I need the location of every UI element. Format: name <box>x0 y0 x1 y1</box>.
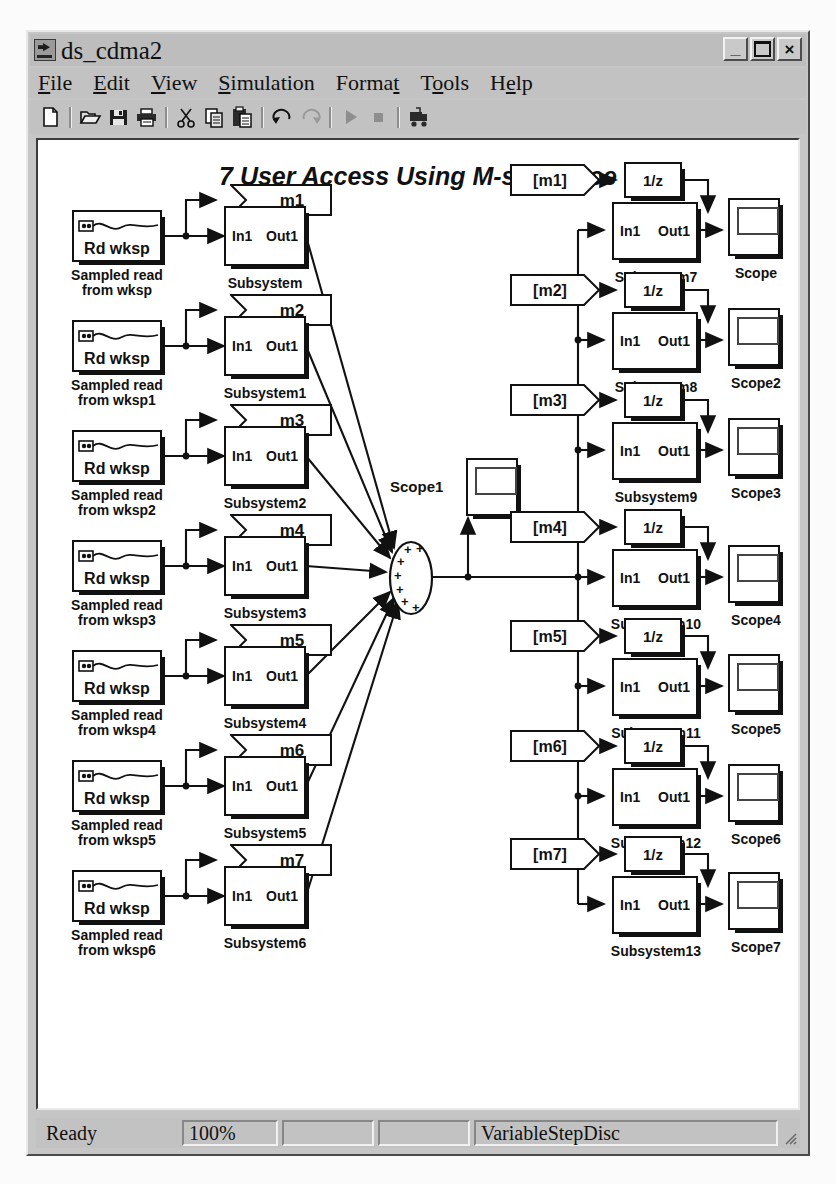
close-glyph: × <box>779 39 800 59</box>
from-tag-label: [m4] <box>533 519 567 536</box>
from-tag-block[interactable]: [m2] <box>510 274 600 306</box>
subsystem-block[interactable]: In1 Out1 <box>224 536 306 596</box>
model-canvas[interactable]: 7 User Access Using M-sequence <box>36 138 800 1110</box>
zoom-level[interactable]: 100% <box>182 1120 278 1146</box>
minimize-glyph: _ <box>725 39 746 59</box>
sum-block[interactable]: + + + + + + + <box>388 540 434 616</box>
read-from-workspace-block[interactable]: Rd wksp <box>72 760 162 812</box>
from-tag-label: [m7] <box>533 846 567 863</box>
paste-icon[interactable] <box>230 105 255 129</box>
minimize-button[interactable]: _ <box>723 37 748 61</box>
subsystem-block[interactable]: In1 Out1 <box>224 866 306 926</box>
subsystem-caption: Subsystem4 <box>210 716 320 731</box>
scope-caption: Scope2 <box>716 376 796 391</box>
subsystem-block[interactable]: In1 Out1 <box>612 312 698 370</box>
unit-delay-block[interactable]: 1/z <box>624 728 682 764</box>
scope-block[interactable] <box>728 872 780 930</box>
scope-caption: Scope6 <box>716 832 796 847</box>
read-from-workspace-block[interactable]: Rd wksp <box>72 210 162 262</box>
menu-edit[interactable]: Edit <box>93 70 130 96</box>
print-icon[interactable] <box>134 105 159 129</box>
subsystem-block[interactable]: In1 Out1 <box>612 876 698 934</box>
unit-delay-label: 1/z <box>626 392 680 409</box>
from-tag-block[interactable]: [m6] <box>510 730 600 762</box>
from-tag-label: [m2] <box>533 282 567 299</box>
subsystem-block[interactable]: In1 Out1 <box>612 202 698 260</box>
scope-block[interactable] <box>728 764 780 822</box>
read-from-workspace-block[interactable]: Rd wksp <box>72 430 162 482</box>
open-model-icon[interactable] <box>78 105 103 129</box>
port-out1: Out1 <box>266 778 298 794</box>
svg-text:+: + <box>397 554 405 569</box>
port-out1: Out1 <box>658 789 690 805</box>
subsystem-block[interactable]: In1 Out1 <box>224 206 306 266</box>
port-out1: Out1 <box>266 668 298 684</box>
from-tag-block[interactable]: [m4] <box>510 511 600 543</box>
scope-caption: Scope3 <box>716 486 796 501</box>
unit-delay-block[interactable]: 1/z <box>624 836 682 872</box>
start-simulation-icon[interactable] <box>338 105 363 129</box>
unit-delay-block[interactable]: 1/z <box>624 272 682 308</box>
subsystem-block[interactable]: In1 Out1 <box>612 658 698 716</box>
subsystem-block[interactable]: In1 Out1 <box>224 316 306 376</box>
subsystem-block[interactable]: In1 Out1 <box>224 426 306 486</box>
cut-icon[interactable] <box>174 105 199 129</box>
unit-delay-block[interactable]: 1/z <box>624 509 682 545</box>
subsystem-block[interactable]: In1 Out1 <box>612 768 698 826</box>
read-from-workspace-block[interactable]: Rd wksp <box>72 650 162 702</box>
copy-icon[interactable] <box>202 105 227 129</box>
subsystem-caption: Subsystem <box>210 276 320 291</box>
resize-grip[interactable] <box>782 1130 798 1146</box>
scope-screen <box>737 207 779 235</box>
scope-block[interactable] <box>728 198 780 256</box>
build-model-icon[interactable] <box>406 105 431 129</box>
menu-format[interactable]: Format <box>336 70 400 96</box>
toolbar-separator <box>261 107 264 128</box>
port-in1: In1 <box>232 558 252 574</box>
unit-delay-block[interactable]: 1/z <box>624 618 682 654</box>
subsystem-block[interactable]: In1 Out1 <box>612 422 698 480</box>
waveform-icon <box>78 216 160 238</box>
read-from-workspace-block[interactable]: Rd wksp <box>72 320 162 372</box>
maximize-button[interactable] <box>750 37 775 61</box>
unit-delay-block[interactable]: 1/z <box>624 162 682 198</box>
menu-file[interactable]: File <box>38 70 72 96</box>
unit-delay-block[interactable]: 1/z <box>624 382 682 418</box>
menu-help[interactable]: Help <box>490 70 533 96</box>
stop-simulation-icon[interactable] <box>366 105 391 129</box>
scope-block[interactable] <box>728 654 780 712</box>
scope-block[interactable] <box>728 545 780 603</box>
port-out1: Out1 <box>266 448 298 464</box>
scope-screen <box>737 554 779 582</box>
source-block-name: Rd wksp <box>74 460 160 478</box>
subsystem-block[interactable]: In1 Out1 <box>612 549 698 607</box>
scope1-block[interactable] <box>466 458 518 516</box>
menu-view[interactable]: View <box>151 70 197 96</box>
solver-name[interactable]: VariableStepDisc <box>474 1120 778 1146</box>
save-icon[interactable] <box>106 105 131 129</box>
new-model-icon[interactable] <box>38 105 63 129</box>
svg-text:+: + <box>416 541 424 556</box>
redo-icon[interactable] <box>298 105 323 129</box>
undo-icon[interactable] <box>270 105 295 129</box>
subsystem-caption: Subsystem5 <box>210 826 320 841</box>
menu-tools[interactable]: Tools <box>420 70 469 96</box>
waveform-icon <box>78 436 160 458</box>
close-button[interactable]: × <box>777 37 802 61</box>
scope-block[interactable] <box>728 418 780 476</box>
from-tag-block[interactable]: [m3] <box>510 384 600 416</box>
from-tag-block[interactable]: [m5] <box>510 620 600 652</box>
port-out1: Out1 <box>658 897 690 913</box>
subsystem-block[interactable]: In1 Out1 <box>224 756 306 816</box>
scope-block[interactable] <box>728 308 780 366</box>
read-from-workspace-block[interactable]: Rd wksp <box>72 540 162 592</box>
port-out1: Out1 <box>266 228 298 244</box>
source-caption: Sampled read from wksp6 <box>52 928 182 958</box>
from-tag-block[interactable]: [m7] <box>510 838 600 870</box>
read-from-workspace-block[interactable]: Rd wksp <box>72 870 162 922</box>
menu-simulation[interactable]: Simulation <box>218 70 315 96</box>
port-in1: In1 <box>232 448 252 464</box>
from-tag-block[interactable]: [m1] <box>510 164 600 196</box>
subsystem-block[interactable]: In1 Out1 <box>224 646 306 706</box>
port-in1: In1 <box>620 789 640 805</box>
